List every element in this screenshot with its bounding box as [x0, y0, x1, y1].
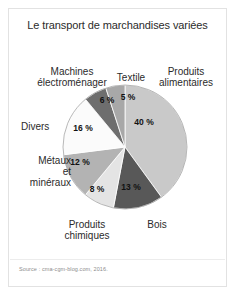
pie-chart: 40 % 13 % 8 % 12 % 16 % 6 % 5 % Machines… [9, 9, 228, 288]
category-label-divers: Divers [21, 121, 49, 132]
source-divider [10, 259, 225, 260]
machines-line-1: Machines [37, 66, 106, 77]
alimentaires-line-1: Produits [159, 66, 213, 77]
figure-frame: Le transport de marchandises variées 40 … [8, 8, 227, 287]
machines-line-2: électroménager [37, 77, 106, 88]
category-label-textile: Textile [117, 72, 145, 83]
category-label-metaux-mineraux: Métaux et minéraux [9, 155, 71, 188]
alimentaires-line-2: alimentaires [159, 77, 213, 88]
slice-value-produits-alimentaires: 40 % [134, 117, 153, 127]
category-label-machines-electromenager: Machines électroménager [37, 66, 106, 88]
slice-value-textile: 5 % [121, 92, 136, 102]
slice-value-machines-electromenager: 6 % [100, 95, 115, 105]
category-label-produits-chimiques: Produits chimiques [64, 219, 109, 241]
slice-value-produits-chimiques: 8 % [90, 184, 105, 194]
metaux-line-2: et [9, 166, 71, 177]
chimiques-line-1: Produits [64, 219, 109, 230]
category-label-bois: Bois [147, 219, 166, 230]
category-label-produits-alimentaires: Produits alimentaires [159, 66, 213, 88]
metaux-line-3: minéraux [9, 177, 71, 188]
chimiques-line-2: chimiques [64, 230, 109, 241]
slice-value-metaux-mineraux: 12 % [70, 157, 89, 167]
metaux-line-1: Métaux [9, 155, 71, 166]
slice-value-divers: 16 % [73, 123, 92, 133]
slice-value-bois: 13 % [121, 182, 140, 192]
source-caption: Source : cma-cgm-blog.com, 2016. [19, 266, 108, 272]
